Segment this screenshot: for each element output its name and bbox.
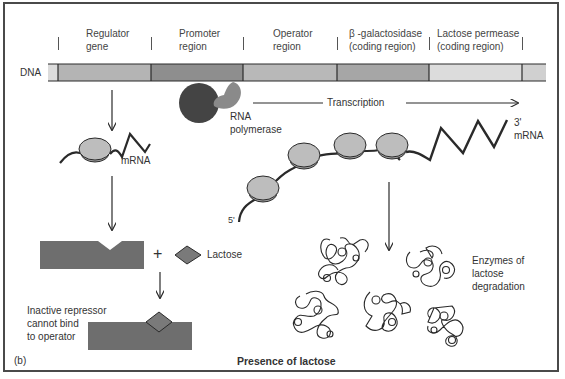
plus-sign: + <box>153 246 162 262</box>
panel-label: (b) <box>14 355 26 367</box>
enzymes-icon <box>294 238 463 347</box>
right-mrna-label: 3'mRNA <box>514 116 543 142</box>
lactose-icon <box>175 246 201 264</box>
lactose-label: Lactose <box>207 249 242 261</box>
repressor-protein-icon <box>40 241 144 269</box>
left-mrna-label: mRNA <box>121 155 150 167</box>
dna-bar <box>48 64 546 81</box>
rna-polymerase-label: RNApolymerase <box>230 110 282 136</box>
transcription-label: Transcription <box>327 97 384 109</box>
five-prime-label: 5' <box>228 214 235 226</box>
figure-caption: Presence of lactose <box>237 355 336 367</box>
enzymes-label: Enzymes of lactose degradation <box>472 254 525 293</box>
inactive-repressor-label: Inactive repressor cannot bind to operat… <box>27 304 106 343</box>
